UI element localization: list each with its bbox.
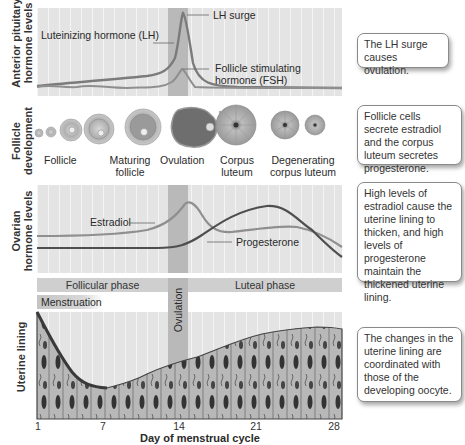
uterine-ylabel: Uterine lining (15, 307, 29, 407)
x-tick-28: 28 (324, 420, 344, 432)
luteal-phase-bar: Luteal phase (188, 278, 342, 292)
ovarian-chart (37, 185, 342, 273)
x-tick-21: 21 (246, 420, 266, 432)
menstruation-label: Menstruation (41, 296, 102, 308)
x-tick-14: 14 (169, 420, 189, 432)
x-tick-1: 1 (28, 420, 48, 432)
callout-ovarian: High levels of estradiol cause the uteri… (357, 182, 462, 282)
stage-ovulation: Ovulation (160, 154, 204, 166)
callout-lh-surge: The LH surge causes ovulation. (357, 33, 449, 68)
follicle-illustrations (30, 100, 330, 160)
ovarian-ylabel: Ovarian hormone levels (10, 181, 36, 281)
x-axis-title: Day of menstrual cycle (140, 432, 260, 444)
progesterone-label: Progesterone (236, 236, 299, 248)
stage-maturing-follicle: Maturing follicle (100, 154, 160, 178)
lh-surge-label: LH surge (213, 9, 256, 21)
stage-corpus-luteum: Corpus luteum (212, 154, 262, 178)
callout-uterine: The changes in the uterine lining are co… (357, 327, 462, 402)
follicular-phase-bar: Follicular phase (37, 278, 168, 292)
x-tick-7: 7 (93, 420, 113, 432)
stage-follicle: Follicle (44, 154, 77, 166)
uterine-lining-illustration (37, 312, 342, 419)
pituitary-ylabel: Anterior pituitary hormone levels (10, 0, 36, 93)
lh-label: Luteinizing hormone (LH) (41, 29, 159, 41)
fsh-label: Follicle stimulating hormone (FSH) (215, 62, 301, 86)
estradiol-label: Estradiol (90, 216, 131, 228)
stage-degenerating-corpus-luteum: Degenerating corpus luteum (263, 154, 343, 178)
callout-follicle: Follicle cells secrete estradiol and the… (357, 105, 462, 165)
